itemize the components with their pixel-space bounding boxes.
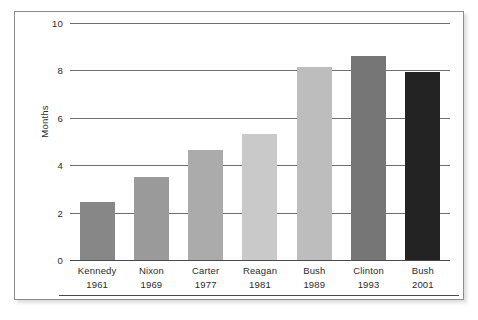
x-tick-label: Clinton1993	[341, 264, 395, 291]
y-tick-label-6: 6	[58, 112, 63, 123]
x-tick-label-name: Carter	[179, 264, 233, 278]
x-tick-label-name: Bush	[287, 264, 341, 278]
bar-group	[351, 23, 386, 260]
x-tick-label-name: Nixon	[124, 264, 178, 278]
bar	[405, 72, 440, 260]
bar-group	[405, 23, 440, 260]
x-tick-label: Bush1989	[287, 264, 341, 291]
x-tick-label-name: Kennedy	[70, 264, 124, 278]
x-tick-label-year: 1981	[233, 278, 287, 292]
x-tick-label-year: 1977	[179, 278, 233, 292]
bar-group	[134, 23, 169, 260]
y-tick-label-8: 8	[58, 65, 63, 76]
x-tick-label-name: Clinton	[341, 264, 395, 278]
x-tick-label-year: 1993	[341, 278, 395, 292]
y-axis-tick-labels: 0246810	[35, 23, 63, 260]
x-tick-label-year: 1989	[287, 278, 341, 292]
x-axis-tick-labels: Kennedy1961Nixon1969Carter1977Reagan1981…	[70, 264, 450, 298]
x-tick-label-name: Reagan	[233, 264, 287, 278]
plot-area	[70, 23, 450, 260]
bar-group	[242, 23, 277, 260]
x-tick-label-year: 1969	[124, 278, 178, 292]
x-tick-label-year: 1961	[70, 278, 124, 292]
y-tick-label-2: 2	[58, 207, 63, 218]
x-tick-label: Kennedy1961	[70, 264, 124, 291]
y-tick-label-10: 10	[52, 18, 63, 29]
bar	[134, 177, 169, 260]
gridline-0	[70, 260, 450, 261]
bar	[188, 150, 223, 260]
bar	[297, 67, 332, 260]
figure: Months 0246810 Kennedy1961Nixon1969Carte…	[0, 0, 478, 320]
y-tick-label-0: 0	[58, 255, 63, 266]
bar-group	[297, 23, 332, 260]
bar-series	[70, 23, 450, 260]
bar-group	[188, 23, 223, 260]
x-tick-label: Nixon1969	[124, 264, 178, 291]
x-tick-label-year: 2001	[396, 278, 450, 292]
x-tick-label: Bush2001	[396, 264, 450, 291]
x-tick-label: Carter1977	[179, 264, 233, 291]
bar	[351, 56, 386, 260]
x-tick-label-name: Bush	[396, 264, 450, 278]
x-tick-label: Reagan1981	[233, 264, 287, 291]
bar	[80, 202, 115, 260]
bar-group	[80, 23, 115, 260]
axis-separator-rule	[59, 295, 459, 296]
bar	[242, 134, 277, 260]
y-tick-label-4: 4	[58, 160, 63, 171]
chart-frame: Months 0246810 Kennedy1961Nixon1969Carte…	[14, 11, 464, 300]
